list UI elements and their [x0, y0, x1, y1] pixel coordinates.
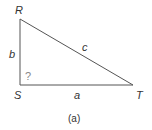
side-label-c: c — [82, 41, 88, 53]
side-label-a: a — [74, 89, 80, 101]
figure-caption: (a) — [68, 113, 80, 124]
angle-unknown-marker: ? — [25, 70, 31, 82]
triangle-diagram: R b c ? S a T (a) — [0, 0, 152, 130]
vertex-label-s: S — [14, 89, 22, 101]
vertex-label-t: T — [136, 89, 144, 101]
vertex-label-r: R — [15, 4, 23, 16]
triangle-rst — [20, 19, 133, 85]
side-label-b: b — [9, 48, 15, 60]
